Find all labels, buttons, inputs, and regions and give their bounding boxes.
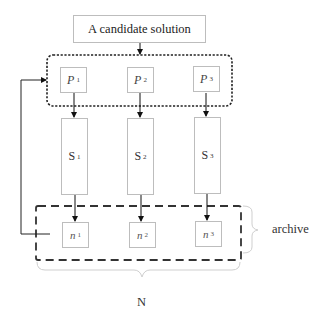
candidate-solution-box: A candidate solution — [73, 15, 206, 43]
search-node-s1: S1 — [61, 118, 88, 195]
population-node-p2: P2 — [127, 67, 154, 93]
candidate-solution-label: A candidate solution — [88, 22, 191, 37]
archive-node-n3: n3 — [195, 221, 222, 247]
node-symbol: S — [201, 148, 208, 163]
node-subscript: 1 — [78, 231, 82, 239]
n-brace — [37, 262, 240, 277]
node-subscript: 2 — [143, 76, 147, 84]
node-symbol: P — [200, 72, 207, 87]
archive-brace — [243, 206, 258, 253]
node-subscript: 1 — [76, 76, 80, 84]
archive-node-n1: n1 — [62, 222, 89, 248]
node-symbol: P — [67, 73, 74, 88]
archive-node-n2: n2 — [129, 222, 156, 248]
population-node-p1: P1 — [60, 67, 87, 93]
search-node-s3: S3 — [194, 117, 221, 194]
node-subscript: 1 — [77, 153, 81, 161]
search-node-s2: S2 — [127, 118, 154, 195]
diagram-connectors — [0, 0, 319, 319]
population-node-p3: P3 — [193, 66, 220, 92]
node-symbol: n — [70, 229, 76, 241]
node-subscript: 3 — [209, 75, 213, 83]
n-count-label: N — [137, 295, 146, 310]
node-subscript: 2 — [145, 231, 149, 239]
node-subscript: 2 — [143, 153, 147, 161]
node-symbol: P — [134, 73, 141, 88]
node-symbol: n — [137, 229, 143, 241]
archive-label: archive — [272, 222, 309, 237]
node-symbol: n — [203, 228, 209, 240]
node-symbol: S — [68, 149, 75, 164]
node-subscript: 3 — [211, 230, 215, 238]
node-symbol: S — [134, 149, 141, 164]
node-subscript: 3 — [210, 152, 214, 160]
